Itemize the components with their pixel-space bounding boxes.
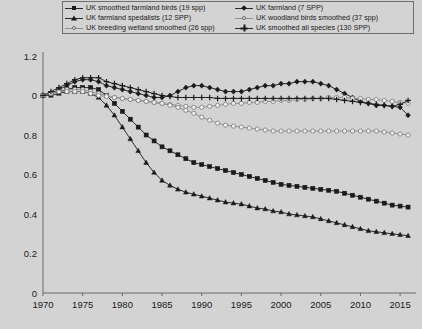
data-point-marker xyxy=(136,125,140,129)
data-point-marker xyxy=(254,96,260,102)
data-point-marker xyxy=(319,187,323,191)
data-point-marker xyxy=(247,87,252,92)
data-point-marker xyxy=(271,180,275,184)
data-point-marker xyxy=(311,129,315,133)
data-point-marker xyxy=(327,188,331,192)
data-point-marker xyxy=(215,103,219,107)
data-point-marker xyxy=(168,103,172,107)
x-axis-tick-label: 2015 xyxy=(390,299,411,310)
data-point-marker xyxy=(73,89,77,93)
data-point-marker xyxy=(207,85,212,90)
data-point-marker xyxy=(152,139,156,143)
data-point-marker xyxy=(326,83,331,88)
data-point-marker xyxy=(135,87,141,93)
legend-item[interactable]: UK smoothed farmland birds (19 spp) xyxy=(65,3,233,13)
series-3 xyxy=(41,89,411,238)
data-point-marker xyxy=(207,95,213,101)
data-point-marker xyxy=(271,129,275,133)
data-point-marker xyxy=(263,128,267,132)
legend-item-label: UK breeding wetland smoothed (26 spp) xyxy=(86,23,215,33)
legend-item[interactable]: UK smoothed all species (130 SPP) xyxy=(235,23,413,33)
data-point-marker xyxy=(374,129,378,133)
x-axis-tick-label: 1985 xyxy=(151,299,172,310)
data-point-marker xyxy=(128,97,132,101)
data-point-marker xyxy=(343,191,347,195)
data-point-marker xyxy=(176,89,181,94)
data-point-marker xyxy=(104,94,108,98)
data-point-marker xyxy=(389,104,395,110)
legend-item[interactable]: UK farmland spedalists (12 SPP) xyxy=(65,13,233,23)
data-point-marker xyxy=(381,103,387,109)
data-point-marker xyxy=(247,96,253,102)
data-point-marker xyxy=(112,95,116,99)
data-point-marker xyxy=(215,121,219,125)
y-axis-tick-label: 0 xyxy=(32,288,37,299)
data-point-marker xyxy=(231,96,237,102)
data-point-marker xyxy=(223,89,228,94)
data-point-marker xyxy=(191,95,197,101)
legend-marker-dia-icon xyxy=(235,4,253,13)
x-axis-tick-label: 1980 xyxy=(112,299,133,310)
data-point-marker xyxy=(151,91,157,97)
x-axis-tick-label: 1970 xyxy=(32,299,53,310)
data-point-marker xyxy=(350,129,354,133)
y-axis-tick-label: 0.2 xyxy=(24,248,37,259)
data-point-marker xyxy=(335,129,339,133)
data-point-marker xyxy=(231,89,236,94)
legend-item-label: UK farmland spedalists (12 SPP) xyxy=(86,13,191,23)
data-point-marker xyxy=(144,99,148,103)
data-point-marker xyxy=(255,176,259,180)
legend-item-label: UK woodland birds smoothed (37 spp) xyxy=(256,13,378,23)
data-point-marker xyxy=(112,81,118,87)
data-point-marker xyxy=(176,105,180,109)
data-point-marker xyxy=(183,85,188,90)
data-point-marker xyxy=(199,95,205,101)
data-point-marker xyxy=(263,83,268,88)
data-point-marker xyxy=(127,85,133,91)
data-point-marker xyxy=(192,111,196,115)
data-point-marker xyxy=(263,178,267,182)
data-point-marker xyxy=(192,161,196,165)
legend-item-label: UK smoothed farmland birds (19 spp) xyxy=(86,3,205,13)
data-point-marker xyxy=(406,133,410,137)
data-point-marker xyxy=(255,85,260,90)
data-point-marker xyxy=(224,169,228,173)
data-point-marker xyxy=(199,83,204,88)
data-point-marker xyxy=(271,83,276,88)
data-point-marker xyxy=(295,79,300,84)
data-point-marker xyxy=(390,203,394,207)
data-point-marker xyxy=(89,86,93,90)
data-point-marker xyxy=(374,199,378,203)
legend-item[interactable]: UK breeding wetland smoothed (26 spp) xyxy=(65,23,233,33)
data-point-marker xyxy=(390,99,394,103)
data-point-marker xyxy=(208,165,212,169)
data-point-marker xyxy=(255,127,259,131)
data-point-marker xyxy=(136,98,140,102)
data-point-marker xyxy=(318,81,323,86)
data-point-marker xyxy=(120,109,124,113)
data-point-marker xyxy=(398,204,402,208)
legend-marker-circ-icon xyxy=(235,14,253,23)
data-point-marker xyxy=(390,131,394,135)
data-point-marker xyxy=(374,97,378,101)
data-point-marker xyxy=(239,173,243,177)
data-point-marker xyxy=(358,129,362,133)
data-point-marker xyxy=(295,129,299,133)
legend-item[interactable]: UK farmland (7 SPP) xyxy=(235,3,413,13)
data-point-marker xyxy=(216,167,220,171)
chart-legend: UK smoothed farmland birds (19 spp)UK fa… xyxy=(62,1,414,34)
data-point-marker xyxy=(191,83,196,88)
x-axis-tick-label: 1975 xyxy=(72,299,93,310)
data-point-marker xyxy=(239,101,243,105)
x-axis-tick-label: 2005 xyxy=(310,299,331,310)
y-axis-tick-label: 0.8 xyxy=(24,130,37,141)
data-point-marker xyxy=(81,89,85,93)
data-point-marker xyxy=(120,83,126,89)
data-point-marker xyxy=(223,102,227,106)
data-point-marker xyxy=(184,157,188,161)
legend-item[interactable]: UK woodland birds smoothed (37 spp) xyxy=(235,13,413,23)
data-point-marker xyxy=(247,126,251,130)
data-point-marker xyxy=(215,87,220,92)
data-point-marker xyxy=(231,171,235,175)
data-point-marker xyxy=(183,95,189,101)
